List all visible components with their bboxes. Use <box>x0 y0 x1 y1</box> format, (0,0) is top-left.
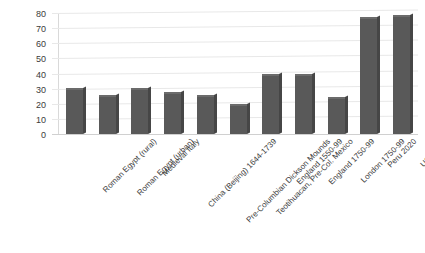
y-tick-label: 50 <box>36 55 46 64</box>
bar[interactable] <box>164 93 181 134</box>
x-tick-label: Medieval Italy <box>160 137 201 178</box>
y-tick-label: 40 <box>36 71 46 80</box>
x-axis-category-labels: Roman Egypt (rural)Roman Egypt (urban)Me… <box>58 137 418 249</box>
y-tick-label: 0 <box>41 131 46 140</box>
bar[interactable] <box>393 16 410 134</box>
y-tick-label: 70 <box>36 25 46 34</box>
bar[interactable] <box>131 89 148 134</box>
bar[interactable] <box>66 89 83 134</box>
y-tick-label: 20 <box>36 101 46 110</box>
bar-slot <box>91 14 124 134</box>
y-axis-tick-labels: 01020304050607080 <box>0 0 50 135</box>
bar-slot <box>123 14 156 134</box>
bar-slot <box>287 14 320 134</box>
bar-slot <box>353 14 386 134</box>
bar[interactable] <box>99 96 116 134</box>
bar[interactable] <box>328 98 345 134</box>
bar-slot <box>385 14 418 134</box>
bar-slot <box>222 14 255 134</box>
bar-slot <box>156 14 189 134</box>
bar-slot <box>320 14 353 134</box>
plot-area <box>52 14 418 135</box>
bar-series <box>58 14 418 134</box>
bar[interactable] <box>360 18 377 134</box>
bar[interactable] <box>295 75 312 134</box>
bar-slot <box>58 14 91 134</box>
y-tick-label: 80 <box>36 10 46 19</box>
bar[interactable] <box>230 105 247 134</box>
x-tick-label: USA 2020 <box>418 137 425 169</box>
y-tick-label: 10 <box>36 116 46 125</box>
y-tick-label: 30 <box>36 86 46 95</box>
bar[interactable] <box>197 96 214 134</box>
y-tick-label: 60 <box>36 40 46 49</box>
bar[interactable] <box>262 75 279 134</box>
bar-slot <box>254 14 287 134</box>
x-axis-baseline <box>52 134 418 135</box>
bar-slot <box>189 14 222 134</box>
bar-chart: 01020304050607080 Roman Egypt (rural)Rom… <box>0 0 425 253</box>
